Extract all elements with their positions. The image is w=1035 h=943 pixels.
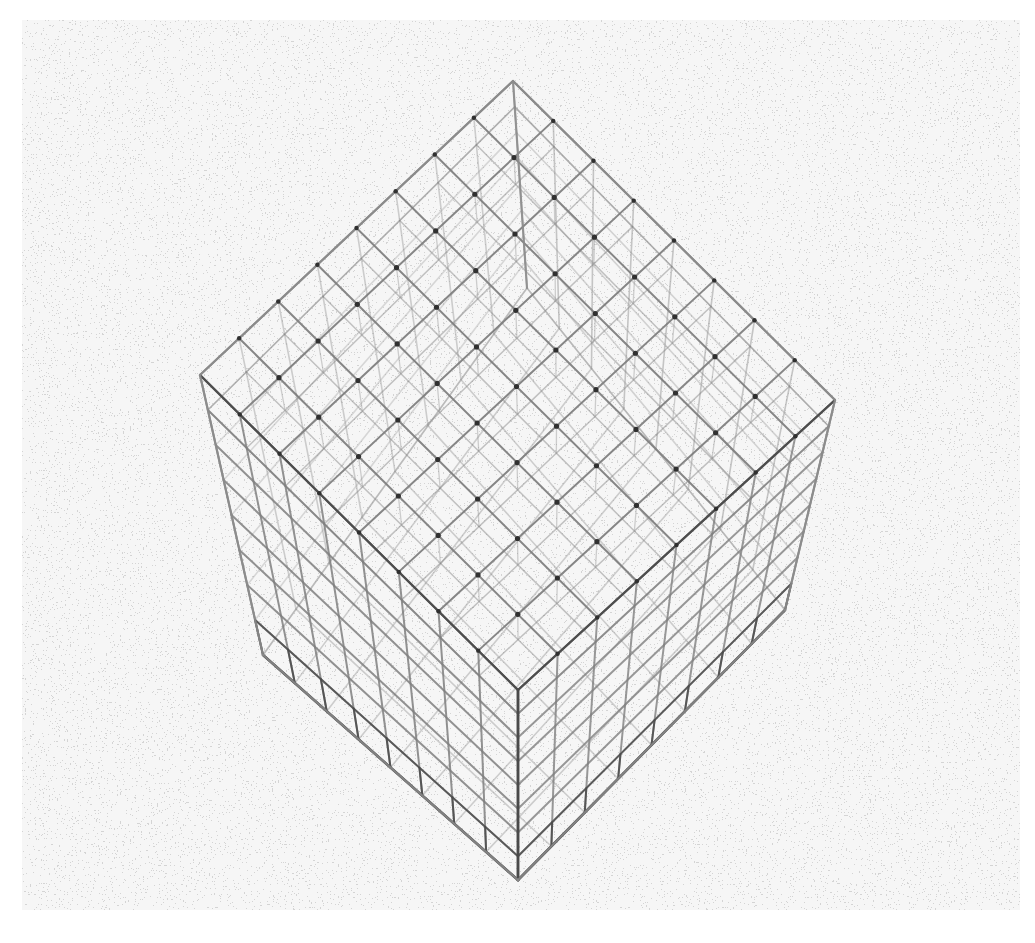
wireframe-cube-drawing [22, 20, 1020, 910]
figure-page [0, 0, 1035, 943]
figure-plate [22, 20, 1020, 910]
